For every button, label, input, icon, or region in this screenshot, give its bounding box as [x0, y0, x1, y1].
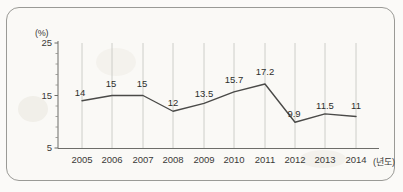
ytick-label-25: 25 [30, 37, 52, 48]
ytick-label-15: 15 [30, 90, 52, 101]
chart-figure: (%) 25 15 5 2005 2006 2007 2008 2009 201… [0, 0, 403, 192]
value-label-2006: 15 [99, 78, 123, 89]
value-label-2014: 11 [344, 100, 368, 111]
xtick-label-2006: 2006 [97, 154, 127, 165]
value-label-2008: 12 [161, 97, 185, 108]
value-label-2010: 15.7 [218, 74, 250, 85]
y-major-ticks [55, 43, 59, 148]
xtick-label-2009: 2009 [189, 154, 219, 165]
ytick-label-5: 5 [30, 142, 52, 153]
value-label-2009: 13.5 [188, 88, 220, 99]
xtick-label-2010: 2010 [219, 154, 249, 165]
xtick-label-2014: 2014 [341, 154, 371, 165]
xtick-label-2013: 2013 [310, 154, 340, 165]
value-label-2011: 17.2 [249, 66, 281, 77]
xtick-label-2011: 2011 [250, 154, 280, 165]
x-axis-title: (년도) [373, 155, 395, 168]
xtick-label-2005: 2005 [67, 154, 97, 165]
value-label-2005: 14 [68, 87, 92, 98]
xtick-label-2008: 2008 [158, 154, 188, 165]
xtick-label-2012: 2012 [280, 154, 310, 165]
value-label-2012: 9.9 [280, 108, 308, 119]
value-label-2013: 11.5 [309, 100, 341, 111]
value-label-2007: 15 [130, 78, 154, 89]
xtick-label-2007: 2007 [128, 154, 158, 165]
